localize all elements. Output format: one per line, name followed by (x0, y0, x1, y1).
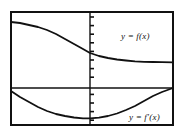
function-curve-label: y = f(x) (121, 31, 150, 41)
derivative-curve-label: y = f′(x) (129, 112, 160, 122)
graph-figure: y = f(x) y = f′(x) (0, 0, 187, 135)
